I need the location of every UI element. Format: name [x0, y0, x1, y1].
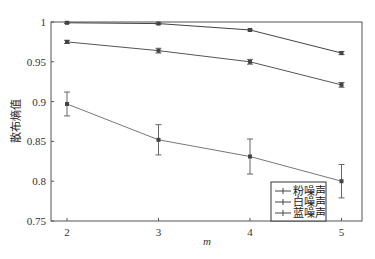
series-line	[67, 23, 342, 53]
y-tick-label: 1	[41, 16, 47, 28]
y-tick-label: 0.85	[27, 135, 47, 147]
x-axis-label: m	[203, 235, 211, 247]
y-axis-label: 散布熵值	[9, 99, 23, 143]
series-line	[67, 104, 342, 181]
data-marker	[65, 21, 69, 25]
series-line	[67, 42, 342, 85]
data-marker	[248, 155, 252, 159]
data-marker	[157, 138, 161, 142]
x-tick-label: 4	[247, 226, 253, 238]
y-tick-label: 0.8	[32, 175, 46, 187]
legend-label: 蓝噪声	[293, 206, 326, 220]
y-tick-label: 0.95	[27, 56, 47, 68]
data-marker	[248, 28, 252, 32]
line-chart: 0.750.80.850.90.9512345m散布熵值粉噪声白噪声蓝噪声	[0, 0, 375, 259]
data-marker	[248, 60, 252, 64]
x-tick-label: 2	[64, 226, 70, 238]
data-marker	[65, 40, 69, 44]
data-marker	[340, 179, 344, 183]
x-tick-label: 3	[156, 226, 162, 238]
data-marker	[340, 83, 344, 87]
data-marker	[157, 49, 161, 53]
y-tick-label: 0.75	[27, 215, 47, 227]
data-marker	[65, 102, 69, 106]
x-tick-label: 5	[339, 226, 345, 238]
data-marker	[157, 22, 161, 26]
data-marker	[340, 51, 344, 55]
y-tick-label: 0.9	[32, 96, 46, 108]
